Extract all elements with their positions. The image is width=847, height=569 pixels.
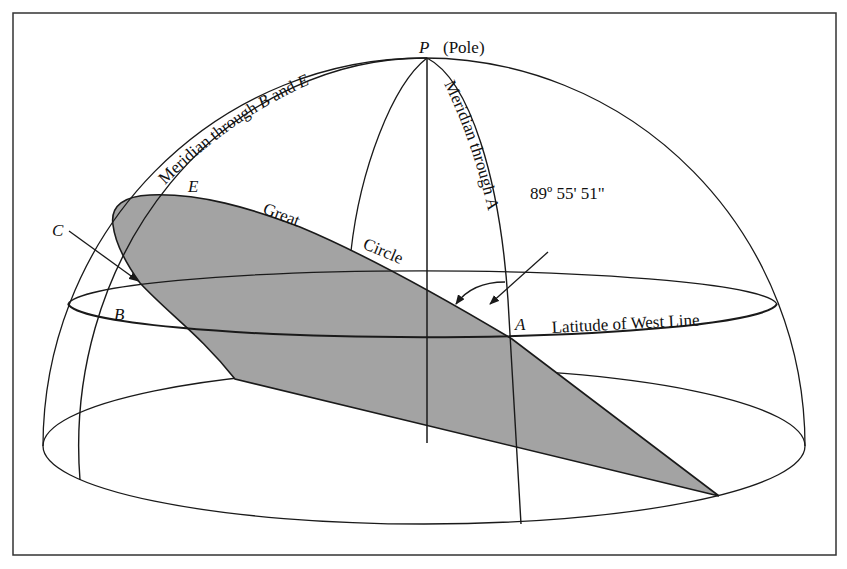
pole-letter-label: P bbox=[418, 38, 429, 57]
angle-arc-arrow bbox=[456, 282, 505, 304]
meridian-be-text: Meridian through bbox=[155, 96, 265, 188]
pole-text-label: (Pole) bbox=[443, 38, 485, 57]
diagram-frame bbox=[13, 13, 836, 555]
meridian-a-label: Meridian through A bbox=[440, 77, 503, 212]
back-meridian bbox=[351, 58, 427, 251]
point-e-label: E bbox=[187, 177, 199, 196]
hemisphere-diagram: P (Pole) Meridian through B and E Meridi… bbox=[0, 0, 847, 569]
point-a-label: A bbox=[514, 315, 526, 334]
meridian-be-label: Meridian through B and E bbox=[155, 70, 313, 188]
angle-pointer-arrow bbox=[490, 252, 548, 304]
latitude-label: Latitude of West Line bbox=[551, 310, 700, 337]
great-circle-plane bbox=[113, 195, 719, 496]
angle-value-label: 89º 55' 51" bbox=[530, 184, 605, 203]
point-b-label: B bbox=[114, 305, 125, 324]
point-c-label: C bbox=[52, 221, 64, 240]
meridian-a-text: Meridian through A bbox=[440, 77, 503, 212]
